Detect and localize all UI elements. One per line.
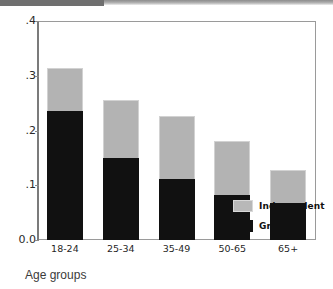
x-tick-label: 35-49 bbox=[149, 243, 205, 255]
bar-segment-independent bbox=[47, 68, 83, 111]
legend-label: Green bbox=[259, 220, 290, 232]
bar-column bbox=[103, 21, 139, 240]
y-tick-label: .1 bbox=[2, 179, 36, 190]
y-tick-label: .4 bbox=[2, 15, 36, 26]
bar-column bbox=[159, 21, 195, 240]
chart-legend: IndependentGreen bbox=[233, 199, 311, 237]
x-tick-label: 50-65 bbox=[204, 243, 260, 255]
stacked-bar-chart: 0.0.1.2.3.4 18-2425-3435-4950-6565+ Age … bbox=[0, 0, 333, 289]
legend-label: Independent bbox=[259, 200, 325, 212]
x-tick-label: 25-34 bbox=[93, 243, 149, 255]
x-tick-label: 18-24 bbox=[37, 243, 93, 255]
legend-item: Green bbox=[233, 219, 311, 234]
bar-segment-independent bbox=[214, 141, 250, 194]
y-tick-label: .3 bbox=[2, 70, 36, 81]
bar-segment-green bbox=[159, 179, 195, 240]
x-axis-title: Age groups bbox=[25, 268, 86, 282]
bar-segment-independent bbox=[159, 116, 195, 179]
bar-column bbox=[47, 21, 83, 240]
bar-segment-independent bbox=[270, 170, 306, 202]
x-tick-label: 65+ bbox=[260, 243, 316, 255]
legend-item: Independent bbox=[233, 199, 311, 214]
y-tick-mark bbox=[35, 240, 39, 241]
bar-segment-green bbox=[47, 111, 83, 240]
legend-swatch-independent bbox=[233, 200, 253, 212]
y-tick-label: 0.0 bbox=[2, 234, 36, 245]
x-axis-tick-labels: 18-2425-3435-4950-6565+ bbox=[37, 243, 316, 259]
bar-segment-independent bbox=[103, 100, 139, 158]
bar-segment-green bbox=[103, 158, 139, 240]
y-tick-label: .2 bbox=[2, 125, 36, 136]
y-axis-tick-labels: 0.0.1.2.3.4 bbox=[0, 0, 36, 289]
legend-swatch-green bbox=[233, 220, 253, 232]
